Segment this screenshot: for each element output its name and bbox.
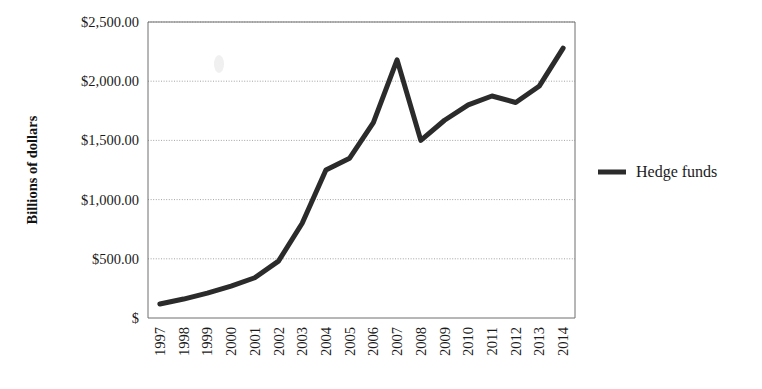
x-tick-label-1997: 1997 xyxy=(152,327,168,356)
x-tick-label-2005: 2005 xyxy=(342,327,358,356)
x-tick-label-2000: 2000 xyxy=(223,327,239,356)
y-tick-label-2500: $2,500.00 xyxy=(81,14,139,30)
x-tick-label-2012: 2012 xyxy=(508,327,524,356)
x-tick-label-2002: 2002 xyxy=(271,327,287,356)
x-tick-label-1998: 1998 xyxy=(176,327,192,356)
y-tick-label-500: $500.00 xyxy=(92,251,139,267)
x-tick-label-2010: 2010 xyxy=(460,327,476,356)
x-tick-label-2007: 2007 xyxy=(389,327,405,356)
x-tick-label-2004: 2004 xyxy=(318,326,334,356)
chart-container: $$500.00$1,000.00$1,500.00$2,000.00$2,50… xyxy=(0,0,762,389)
x-tick-label-2003: 2003 xyxy=(294,327,310,356)
x-tick-label-2013: 2013 xyxy=(531,327,547,356)
x-tick-label-2011: 2011 xyxy=(484,327,500,355)
x-tick-label-1999: 1999 xyxy=(199,327,215,356)
x-tick-label-2001: 2001 xyxy=(247,327,263,356)
x-tick-label-2014: 2014 xyxy=(555,326,571,356)
y-tick-label-1500: $1,500.00 xyxy=(81,132,139,148)
x-tick-label-2009: 2009 xyxy=(437,327,453,356)
scan-artifact xyxy=(214,55,224,73)
x-tick-label-2008: 2008 xyxy=(413,327,429,356)
legend-label-0: Hedge funds xyxy=(636,163,717,181)
x-tick-label-2006: 2006 xyxy=(365,327,381,356)
y-tick-label-2000: $2,000.00 xyxy=(81,73,139,89)
y-tick-label-1000: $1,000.00 xyxy=(81,192,139,208)
line-chart: $$500.00$1,000.00$1,500.00$2,000.00$2,50… xyxy=(0,0,762,389)
y-tick-label-0: $ xyxy=(132,310,139,326)
y-axis-title: Billions of dollars xyxy=(24,115,40,224)
